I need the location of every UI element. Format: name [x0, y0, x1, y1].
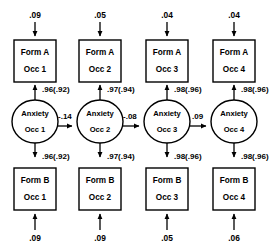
column-occ-2: .05 Form A Occ 2 .97(.94) Anxiety Occ 2 … — [77, 10, 135, 243]
column-occ-4: .04 Form A Occ 4 .98(.96) Anxiety Occ 4 … — [211, 10, 269, 243]
indicator-box-form-b-occ-3[interactable] — [146, 168, 188, 210]
path-diagram-container: .09 Form A Occ 1 .96(.92) Anxiety Occ 1 … — [0, 0, 277, 252]
indicator-label-form-b-occ-4-line1: Form B — [220, 176, 249, 185]
indicator-label-form-b-occ-3-line2: Occ 3 — [156, 193, 179, 202]
indicator-label-form-a-occ-4-line2: Occ 4 — [223, 65, 246, 74]
latent-label-anxiety-occ-1-line1: Anxiety — [21, 109, 49, 118]
top-loading-value-occ-3: .98(.96) — [174, 85, 202, 94]
top-loading-value-occ-1: .96(.92) — [42, 85, 70, 94]
latent-ellipse-anxiety-occ-1[interactable] — [12, 100, 58, 143]
bottom-loading-value-occ-1: .96(.92) — [42, 152, 70, 161]
latent-ellipse-anxiety-occ-3[interactable] — [144, 100, 190, 143]
latent-label-anxiety-occ-4-line2: Occ 4 — [224, 125, 245, 134]
indicator-box-form-b-occ-2[interactable] — [79, 168, 121, 210]
bottom-residual-value-occ-3: .05 — [161, 233, 173, 243]
indicator-label-form-b-occ-1-line1: Form B — [21, 176, 50, 185]
latent-ellipse-anxiety-occ-2[interactable] — [77, 100, 123, 143]
latent-label-anxiety-occ-2-line1: Anxiety — [86, 109, 114, 118]
bottom-loading-value-occ-2: .97(.94) — [107, 152, 135, 161]
top-residual-value-occ-1: .09 — [29, 10, 41, 20]
indicator-label-form-b-occ-2-line1: Form B — [86, 176, 115, 185]
top-residual-value-occ-4: .04 — [228, 10, 240, 20]
indicator-label-form-a-occ-1-line1: Form A — [21, 48, 49, 57]
indicator-label-form-a-occ-4-line1: Form A — [220, 48, 248, 57]
latent-label-anxiety-occ-2-line2: Occ 2 — [90, 125, 111, 134]
indicator-box-form-b-occ-4[interactable] — [213, 168, 255, 210]
indicator-label-form-b-occ-4-line2: Occ 4 — [223, 193, 246, 202]
indicator-box-form-b-occ-1[interactable] — [14, 168, 56, 210]
indicator-label-form-a-occ-3-line1: Form A — [153, 48, 181, 57]
path-diagram-svg: .09 Form A Occ 1 .96(.92) Anxiety Occ 1 … — [0, 0, 277, 252]
top-loading-value-occ-4: .98(.96) — [241, 85, 269, 94]
column-occ-1: .09 Form A Occ 1 .96(.92) Anxiety Occ 1 … — [12, 10, 70, 243]
indicator-label-form-b-occ-1-line2: Occ 1 — [24, 193, 47, 202]
top-residual-value-occ-2: .05 — [94, 10, 106, 20]
indicator-label-form-b-occ-3-line1: Form B — [153, 176, 182, 185]
column-occ-3: .04 Form A Occ 3 .98(.96) Anxiety Occ 3 … — [144, 10, 202, 243]
indicator-box-form-a-occ-4[interactable] — [213, 40, 255, 82]
indicator-label-form-a-occ-2-line2: Occ 2 — [89, 65, 112, 74]
bottom-residual-value-occ-1: .09 — [29, 233, 41, 243]
indicator-box-form-a-occ-2[interactable] — [79, 40, 121, 82]
top-residual-value-occ-3: .04 — [161, 10, 173, 20]
latent-ellipse-anxiety-occ-4[interactable] — [211, 100, 257, 143]
structural-coefficient-occ3-to-occ4: .09 — [192, 112, 204, 121]
bottom-loading-value-occ-3: .98(.96) — [174, 152, 202, 161]
indicator-box-form-a-occ-1[interactable] — [14, 40, 56, 82]
structural-coefficient-occ1-to-occ2: -.14 — [58, 112, 72, 121]
indicator-label-form-b-occ-2-line2: Occ 2 — [89, 193, 112, 202]
indicator-label-form-a-occ-1-line2: Occ 1 — [24, 65, 47, 74]
bottom-residual-value-occ-2: .09 — [94, 233, 106, 243]
bottom-loading-value-occ-4: .98(.96) — [241, 152, 269, 161]
structural-coefficient-occ2-to-occ3: -.08 — [123, 112, 137, 121]
indicator-label-form-a-occ-2-line1: Form A — [86, 48, 114, 57]
latent-label-anxiety-occ-3-line1: Anxiety — [153, 109, 181, 118]
indicator-label-form-a-occ-3-line2: Occ 3 — [156, 65, 179, 74]
bottom-residual-value-occ-4: .06 — [228, 233, 240, 243]
latent-label-anxiety-occ-1-line2: Occ 1 — [25, 125, 46, 134]
latent-label-anxiety-occ-3-line2: Occ 3 — [157, 125, 178, 134]
latent-label-anxiety-occ-4-line1: Anxiety — [220, 109, 248, 118]
indicator-box-form-a-occ-3[interactable] — [146, 40, 188, 82]
top-loading-value-occ-2: .97(.94) — [107, 85, 135, 94]
